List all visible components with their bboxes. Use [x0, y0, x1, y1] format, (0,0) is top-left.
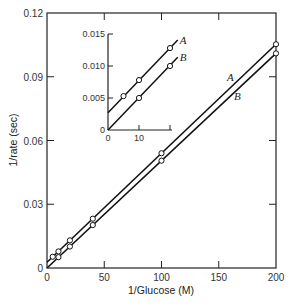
inset-y-tick-label: 0.010: [82, 61, 105, 71]
y-tick-label: 0.03: [24, 199, 44, 210]
inset-data-point-b: [136, 95, 141, 100]
x-tick-label: 100: [153, 272, 170, 283]
data-point-b: [159, 158, 164, 163]
inset-x-tick-label: 10: [134, 133, 144, 143]
data-point-b: [273, 51, 278, 56]
data-point-a: [159, 151, 164, 156]
y-tick-label: 0.12: [24, 8, 44, 19]
inset-data-point-a: [136, 77, 141, 82]
series-label-a: A: [226, 71, 234, 83]
inset-plot: 00.0050.0100.015010AB: [82, 29, 186, 143]
x-tick-label: 150: [210, 272, 227, 283]
data-point-b: [56, 255, 61, 260]
data-point-a: [273, 42, 278, 47]
inset-y-tick-label: 0.005: [82, 93, 105, 103]
x-tick-label: 200: [268, 272, 285, 283]
inset-y-tick-label: 0.015: [82, 29, 105, 39]
inset-series-label-a: A: [179, 34, 187, 46]
inset-series-line-b: [108, 57, 178, 130]
data-point-a: [56, 249, 61, 254]
y-axis-label: 1/rate (sec): [7, 113, 19, 166]
x-tick-label: 50: [99, 272, 111, 283]
inset-x-tick-label: 0: [105, 133, 110, 143]
y-tick-label: 0: [37, 263, 43, 274]
y-tick-label: 0.09: [24, 72, 44, 83]
inset-y-tick-label: 0: [100, 125, 105, 135]
x-tick-label: 0: [44, 272, 50, 283]
data-point-a: [50, 254, 55, 259]
series-label-b: B: [234, 90, 241, 102]
inset-data-point-a: [121, 93, 126, 98]
lineweaver-burk-chart: 05010015020000.030.060.090.12 00.0050.01…: [0, 0, 294, 307]
data-point-b: [90, 222, 95, 227]
inset-data-point-b: [167, 63, 172, 68]
data-point-b: [67, 244, 72, 249]
inset-data-point-a: [167, 45, 172, 50]
inset-series-label-b: B: [180, 51, 187, 63]
y-tick-label: 0.06: [24, 136, 44, 147]
inset-series-line-a: [108, 40, 178, 113]
x-axis-label: 1/Glucose (M): [128, 284, 194, 296]
data-point-a: [90, 216, 95, 221]
main-axis-ticks: 05010015020000.030.060.090.12: [24, 8, 285, 283]
data-point-a: [67, 238, 72, 243]
